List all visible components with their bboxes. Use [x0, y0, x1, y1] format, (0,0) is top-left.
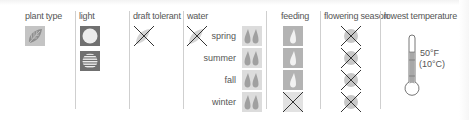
- one-drop-icon: [283, 48, 303, 68]
- two-drops-icon: [242, 92, 262, 112]
- temperature-fahrenheit: 50°F: [420, 48, 439, 59]
- x-mark-icon: [340, 69, 362, 91]
- x-mark-icon: [340, 91, 362, 113]
- divider: [380, 11, 381, 109]
- header-water: water: [187, 11, 208, 21]
- header-light: light: [79, 11, 95, 21]
- season-label-winter: winter: [186, 97, 236, 107]
- header-feeding: feeding: [281, 11, 309, 21]
- filtered-light-icon: [80, 51, 100, 71]
- x-mark-icon: [340, 25, 362, 47]
- right-edge: [459, 0, 469, 120]
- divider: [129, 11, 130, 109]
- season-label-fall: fall: [186, 75, 236, 85]
- header-lowest-temperature: lowest temperature: [384, 11, 457, 21]
- x-mark-icon: [133, 25, 155, 47]
- one-drop-icon: [283, 70, 303, 90]
- season-label-summer: summer: [186, 53, 236, 63]
- divider: [75, 11, 76, 109]
- season-label-spring: spring: [186, 31, 236, 41]
- two-drops-icon: [242, 48, 262, 68]
- divider: [320, 11, 321, 109]
- x-mark-icon: [283, 92, 303, 112]
- divider: [266, 11, 267, 109]
- header-plant-type: plant type: [25, 11, 62, 21]
- header-draft-tolerant: draft tolerant: [133, 11, 181, 21]
- header-flowering-season: flowering season: [324, 11, 388, 21]
- one-drop-icon: [283, 26, 303, 46]
- top-bar: [0, 0, 469, 5]
- x-mark-icon: [340, 47, 362, 69]
- two-drops-icon: [242, 70, 262, 90]
- temperature-celsius: (10°C): [419, 59, 445, 70]
- leaf-icon: [25, 26, 45, 46]
- two-drops-icon: [242, 26, 262, 46]
- full-sun-icon: [80, 26, 100, 46]
- divider: [183, 11, 184, 109]
